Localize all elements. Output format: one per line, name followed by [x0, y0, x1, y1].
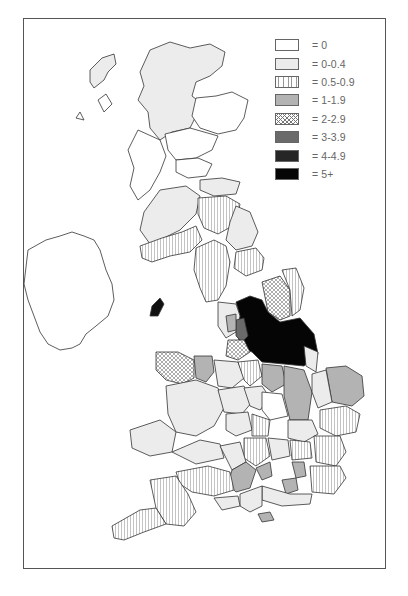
region-dyfed	[130, 420, 176, 456]
region-powys	[166, 380, 224, 436]
region-suffolk	[320, 406, 360, 436]
region-bucks	[268, 438, 290, 460]
region-notts	[262, 364, 286, 392]
legend-swatch	[275, 76, 299, 88]
region-isle-of-wight	[258, 512, 274, 522]
legend-label: = 0	[312, 39, 327, 51]
region-lincs	[284, 366, 312, 420]
legend-label: = 5+	[312, 168, 333, 180]
legend-swatch	[275, 150, 299, 162]
region-cumbria	[194, 240, 230, 302]
region-outer-hebrides	[90, 54, 116, 88]
legend-label: = 4-4.9	[312, 150, 346, 162]
legend-label: = 1-1.9	[312, 94, 346, 106]
region-skye	[98, 94, 112, 112]
legend-item-4: = 2-2.9	[275, 110, 385, 128]
region-argyll	[128, 130, 166, 200]
legend-label: = 0-0.4	[312, 58, 346, 70]
region-midlands-e	[252, 414, 270, 436]
legend-swatch	[275, 131, 299, 143]
region-essex	[314, 436, 346, 466]
legend-label: = 2-2.9	[312, 113, 346, 125]
region-tayside	[165, 128, 218, 160]
region-grampian	[192, 92, 248, 134]
legend-item-0: = 0	[275, 36, 385, 54]
region-cambs	[288, 420, 318, 442]
region-midlands-d	[226, 412, 252, 436]
legend-swatch	[275, 58, 299, 70]
region-lothian	[200, 178, 240, 196]
legend-swatch	[275, 94, 299, 106]
region-clwyd	[194, 356, 214, 382]
region-dorset	[214, 496, 240, 510]
region-herts	[290, 440, 312, 460]
region-isle-of-man	[150, 298, 164, 316]
legend-item-3: = 1-1.9	[275, 91, 385, 109]
region-oxon	[244, 438, 270, 466]
region-surrey-grey	[282, 478, 298, 494]
region-durham	[234, 248, 264, 276]
region-london-grey	[292, 462, 306, 478]
legend-label: = 0.5-0.9	[312, 76, 355, 88]
region-gwynedd	[156, 352, 194, 384]
region-fife	[176, 158, 212, 178]
legend-swatch	[275, 39, 299, 51]
legend-item-6: = 4-4.9	[275, 146, 385, 164]
legend-item-7: = 5+	[275, 165, 385, 183]
region-cornwall	[112, 508, 166, 540]
region-glamorgan	[172, 440, 224, 464]
legend-item-5: = 3-3.9	[275, 128, 385, 146]
legend: = 0 = 0-0.4 = 0.5-0.9 = 1-1.9 = 2-2.9 = …	[275, 36, 385, 183]
legend-swatch	[275, 113, 299, 125]
legend-item-1: = 0-0.4	[275, 54, 385, 72]
legend-item-2: = 0.5-0.9	[275, 73, 385, 91]
legend-label: = 3-3.9	[312, 131, 346, 143]
ireland-outline	[24, 232, 114, 350]
region-kent	[310, 466, 346, 494]
legend-swatch	[275, 168, 299, 180]
